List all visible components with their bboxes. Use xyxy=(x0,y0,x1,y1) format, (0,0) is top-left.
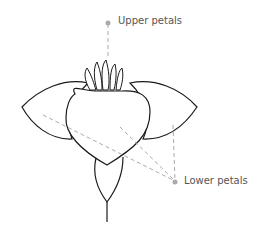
flower-diagram: Upper petals Lower petals xyxy=(0,0,268,233)
upper-petals-label: Upper petals xyxy=(118,15,182,26)
stamens xyxy=(85,60,123,90)
flower-illustration xyxy=(0,0,268,233)
upper-marker-dot xyxy=(106,21,111,26)
lower-marker-dot xyxy=(173,180,178,185)
center-petal xyxy=(66,88,150,165)
lower-petals-label: Lower petals xyxy=(184,175,248,186)
